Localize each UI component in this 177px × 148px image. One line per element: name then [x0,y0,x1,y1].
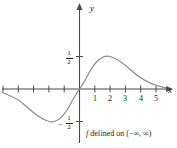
x-tick-label-1: 1 [90,95,100,103]
y-axis-label: y [90,4,94,13]
x-tick-label-4: 4 [136,95,146,103]
y-tick-label-one-half: 1 2 [62,50,76,66]
minus-sign: − [58,121,63,129]
fraction-numerator: 1 [62,115,76,122]
fraction-denominator: 2 [62,124,76,131]
plot-canvas [0,0,177,148]
function-graph-figure: y x 1 2 3 4 5 1 2 − 1 2 f defined on (−∞… [0,0,177,148]
x-tick-label-3: 3 [120,95,130,103]
x-tick-label-5: 5 [151,95,161,103]
y-axis-arrowhead [77,3,83,10]
figure-caption: f defined on (−∞, ∞) [86,130,151,138]
x-tick-label-2: 2 [105,95,115,103]
fraction-denominator: 2 [62,59,76,66]
fraction-numerator: 1 [62,50,76,57]
x-axis-label: x [168,86,172,95]
caption-domain-text: defined on (−∞, ∞) [88,129,151,138]
y-tick-label-negative-one-half: − 1 2 [62,115,76,131]
